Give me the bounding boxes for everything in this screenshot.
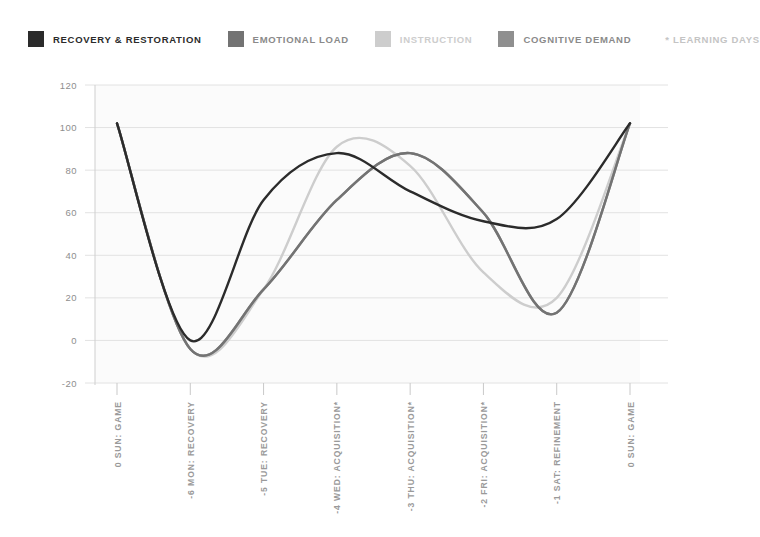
y-tick-label-60: 60 — [65, 207, 77, 218]
y-tick-label-40: 40 — [65, 250, 77, 261]
x-tick-label-0: 0 SUN: GAME — [113, 401, 123, 467]
x-tick-label-2: -5 TUE: RECOVERY — [259, 401, 269, 496]
chart-y-axis-labels: 120100806040200-20 — [60, 80, 77, 389]
legend-swatch-cognitive-demand — [498, 31, 514, 47]
y-tick-label-80: 80 — [65, 165, 77, 176]
legend-label-2: INSTRUCTION — [400, 34, 473, 45]
chart-container: 120100806040200-20 0 SUN: GAME-6 MON: RE… — [0, 60, 717, 537]
legend-label-3: COGNITIVE DEMAND — [523, 34, 631, 45]
y-tick-label-120: 120 — [60, 80, 77, 91]
x-tick-label-7: 0 SUN: GAME — [626, 401, 636, 467]
y-tick-label-20: 20 — [65, 292, 77, 303]
x-tick-label-5: -2 FRI: ACQUISITION* — [479, 401, 489, 507]
chart-x-tickmarks — [117, 383, 630, 395]
legend-footnote: * LEARNING DAYS — [665, 34, 760, 45]
plot-background — [95, 85, 640, 383]
x-tick-label-6: -1 SAT: REFINEMENT — [552, 401, 562, 504]
legend-item-3[interactable]: COGNITIVE DEMAND — [498, 31, 631, 47]
x-tick-label-3: -4 WED: ACQUISITION* — [332, 401, 342, 514]
legend-item-2[interactable]: INSTRUCTION — [375, 31, 473, 47]
legend-item-0[interactable]: RECOVERY & RESTORATION — [28, 31, 202, 47]
chart-svg: 120100806040200-20 0 SUN: GAME-6 MON: RE… — [0, 60, 717, 537]
x-tick-label-1: -6 MON: RECOVERY — [186, 401, 196, 499]
legend-swatch-instruction — [375, 31, 391, 47]
legend-label-0: RECOVERY & RESTORATION — [53, 34, 202, 45]
chart-x-axis-labels: 0 SUN: GAME-6 MON: RECOVERY-5 TUE: RECOV… — [113, 401, 636, 514]
x-tick-label-4: -3 THU: ACQUISITION* — [406, 401, 416, 511]
chart-legend: RECOVERY & RESTORATIONEMOTIONAL LOADINST… — [0, 28, 717, 50]
legend-swatch-recovery — [28, 31, 44, 47]
y-tick-label--20: -20 — [62, 378, 77, 389]
legend-label-1: EMOTIONAL LOAD — [253, 34, 349, 45]
legend-swatch-emotional-load — [228, 31, 244, 47]
y-tick-label-0: 0 — [71, 335, 77, 346]
y-tick-label-100: 100 — [60, 122, 77, 133]
legend-item-1[interactable]: EMOTIONAL LOAD — [228, 31, 349, 47]
